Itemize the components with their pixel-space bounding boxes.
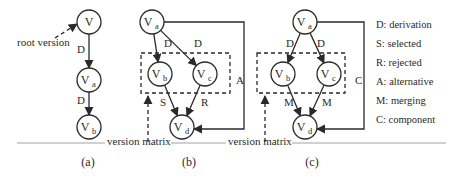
version-node: V (77, 10, 101, 34)
panel-caption: (a) (81, 155, 94, 169)
edge-arrow (154, 34, 158, 62)
node-label: V (81, 120, 90, 134)
node-label: V (275, 67, 284, 81)
node-label: V (297, 120, 306, 134)
edge-label: D (194, 37, 202, 49)
panel-caption: (b) (182, 155, 196, 169)
version-matrix-label: version matrix (107, 135, 171, 147)
figure-svg: version matrixversion matrix(a)(b)(c) DD… (0, 0, 462, 182)
node-label: V (321, 67, 330, 81)
node-label: V (144, 15, 153, 29)
node-label: V (152, 67, 161, 81)
node-label: V (81, 73, 90, 87)
version-node: Vd (170, 115, 194, 139)
side-edge-label: A (236, 74, 244, 86)
node-label: V (297, 15, 306, 29)
node-subscript: b (163, 73, 167, 83)
version-node: Vc (317, 62, 341, 86)
node-subscript: b (286, 73, 290, 83)
version-node: Va (140, 10, 164, 34)
version-node: Vb (148, 62, 172, 86)
baseline-layer: version matrixversion matrix(a)(b)(c) (17, 135, 446, 169)
node-subscript: a (308, 21, 312, 31)
node-subscript: c (208, 73, 212, 83)
legend-item-s: S: selected (376, 38, 422, 49)
panel-caption: (c) (305, 155, 318, 169)
version-node: Va (77, 68, 101, 92)
version-node: Vb (77, 115, 101, 139)
node-label: V (174, 120, 183, 134)
version-node: Vb (271, 62, 295, 86)
edge-label: D (164, 37, 172, 49)
legend-item-a: A: alternative (376, 76, 434, 87)
node-subscript: c (332, 73, 336, 83)
legend: D: derivationS: selectedR: rejectedA: al… (376, 19, 435, 125)
node-label: V (85, 15, 94, 29)
root-version-label: root version (17, 36, 70, 48)
legend-item-c: C: component (376, 114, 435, 125)
side-edge-label: C (355, 74, 362, 86)
edge-arrow (165, 85, 178, 116)
edge-label: R (201, 96, 209, 108)
edge-label: M (284, 96, 294, 108)
version-node: Vd (293, 115, 317, 139)
legend-item-d: D: derivation (376, 19, 432, 30)
edge-label: D (77, 43, 85, 55)
edge-arrow (187, 85, 200, 116)
version-matrix-label: version matrix (228, 135, 292, 147)
version-model-figure: version matrixversion matrix(a)(b)(c) DD… (0, 0, 462, 182)
panel-b: DDSRAVaVbVcVd (140, 10, 244, 142)
edge-label: D (317, 37, 325, 49)
node-label: V (197, 67, 206, 81)
node-subscript: a (155, 21, 159, 31)
legend-item-m: M: merging (376, 95, 426, 106)
edge-label: D (286, 37, 294, 49)
version-node: Va (293, 10, 317, 34)
node-subscript: b (92, 126, 96, 136)
legend-item-r: R: rejected (376, 57, 423, 68)
panel-c: DDMMCVaVbVcVd (257, 10, 364, 142)
node-subscript: a (92, 79, 96, 89)
version-node: Vc (193, 62, 217, 86)
panel-a: DDroot versionVVaVb (17, 10, 101, 139)
edge-label: D (77, 94, 85, 106)
edge-label: M (322, 96, 332, 108)
edge-label: S (160, 96, 166, 108)
